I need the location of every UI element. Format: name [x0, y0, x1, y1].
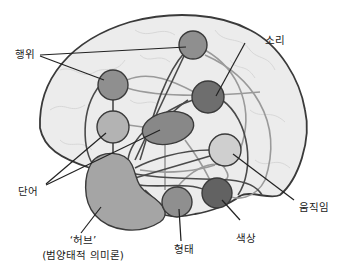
- motion-node: [209, 134, 241, 166]
- action-node-mid: [98, 70, 128, 100]
- label-hub-subtitle: (범양태적 의미론): [42, 250, 124, 261]
- shape-node: [162, 187, 192, 217]
- label-color: 색상: [236, 233, 256, 244]
- label-word: 단어: [18, 186, 38, 197]
- brain-semantic-hub-diagram: 행위 소리 단어 움직임 색상 형태 ‘허브’ (범양태적 의미론): [0, 0, 340, 277]
- label-shape: 형태: [174, 244, 194, 255]
- label-sound: 소리: [265, 35, 285, 46]
- label-action: 행위: [15, 49, 35, 60]
- label-hub: ‘허브’: [70, 235, 97, 246]
- label-motion: 움직임: [299, 202, 329, 213]
- word-node: [97, 111, 129, 143]
- action-node-top: [179, 31, 207, 59]
- sound-node: [192, 81, 224, 113]
- color-node: [202, 178, 232, 208]
